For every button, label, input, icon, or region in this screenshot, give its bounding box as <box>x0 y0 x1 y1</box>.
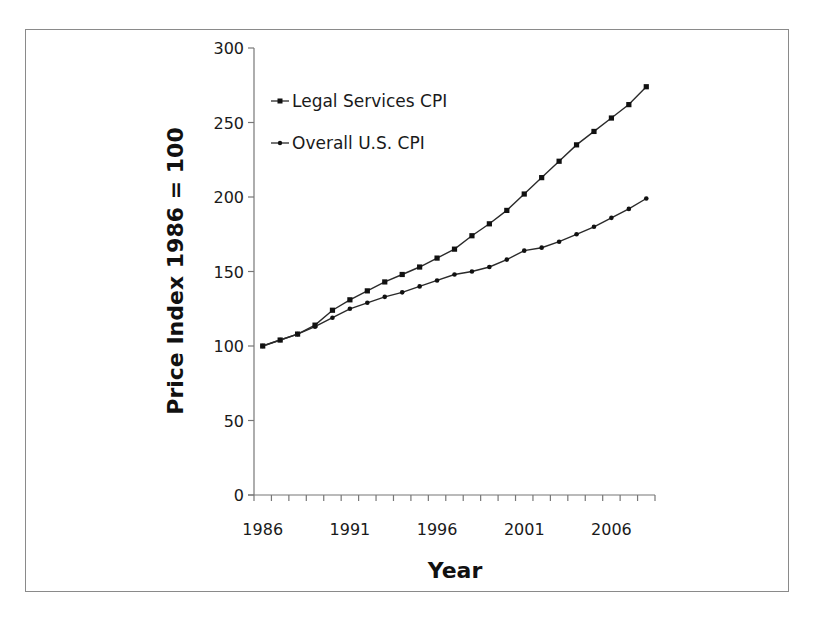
y-tick-label: 250 <box>213 114 244 133</box>
data-point <box>452 272 457 277</box>
data-point <box>557 159 562 164</box>
data-point <box>347 297 352 302</box>
legend-label-overall: Overall U.S. CPI <box>292 133 425 153</box>
legend-label-legal: Legal Services CPI <box>292 91 447 111</box>
data-point <box>365 288 370 293</box>
data-point <box>330 308 335 313</box>
series-lines <box>260 84 649 348</box>
data-point <box>626 102 631 107</box>
data-point <box>382 279 387 284</box>
data-point <box>348 306 353 311</box>
data-point <box>522 248 527 253</box>
data-point <box>539 175 544 180</box>
data-point <box>417 284 422 289</box>
dot-marker-icon <box>278 141 282 145</box>
data-point <box>295 332 300 337</box>
data-point <box>609 115 614 120</box>
data-point <box>591 129 596 134</box>
data-point <box>644 84 649 89</box>
x-tick-label: 2001 <box>504 520 545 539</box>
data-point <box>644 196 649 201</box>
y-tick-label: 0 <box>234 486 244 505</box>
x-tick-label: 1991 <box>330 520 371 539</box>
square-marker-icon <box>278 99 283 104</box>
data-point <box>469 233 474 238</box>
y-tick-label: 300 <box>213 39 244 58</box>
y-tick-label: 150 <box>213 263 244 282</box>
y-tick-label: 50 <box>224 412 244 431</box>
data-point <box>539 245 544 250</box>
data-point <box>504 208 509 213</box>
data-point <box>260 344 265 349</box>
data-point <box>487 221 492 226</box>
data-point <box>470 269 475 274</box>
data-point <box>557 239 562 244</box>
line-chart: 050100150200250300 19861991199620012006 … <box>0 0 818 630</box>
data-point <box>574 232 579 237</box>
y-axis-title: Price Index 1986 = 100 <box>163 127 188 414</box>
data-point <box>400 272 405 277</box>
data-point <box>592 225 597 230</box>
y-tick-label: 100 <box>213 337 244 356</box>
legend-item-overall: Overall U.S. CPI <box>271 133 425 153</box>
x-tick-label: 2006 <box>591 520 632 539</box>
data-point <box>627 207 632 212</box>
y-tick-label: 200 <box>213 188 244 207</box>
x-axis-title: Year <box>427 558 483 583</box>
y-tick-labels: 050100150200250300 <box>213 39 244 505</box>
data-point <box>452 247 457 252</box>
data-point <box>330 315 335 320</box>
data-point <box>382 295 387 300</box>
data-point <box>434 255 439 260</box>
data-point <box>487 265 492 270</box>
data-point <box>417 264 422 269</box>
data-point <box>435 278 440 283</box>
data-point <box>400 290 405 295</box>
x-tick-label: 1986 <box>242 520 283 539</box>
data-point <box>609 216 614 221</box>
series-1 <box>260 196 648 348</box>
data-point <box>574 142 579 147</box>
series-0 <box>260 84 649 348</box>
axes <box>248 48 655 501</box>
legend: Legal Services CPI Overall U.S. CPI <box>271 91 447 153</box>
data-point <box>365 300 370 305</box>
data-point <box>278 338 283 343</box>
legend-item-legal: Legal Services CPI <box>271 91 447 111</box>
x-tick-labels: 19861991199620012006 <box>242 520 631 539</box>
x-tick-label: 1996 <box>417 520 458 539</box>
data-point <box>505 257 510 262</box>
data-point <box>313 324 318 329</box>
data-point <box>522 191 527 196</box>
